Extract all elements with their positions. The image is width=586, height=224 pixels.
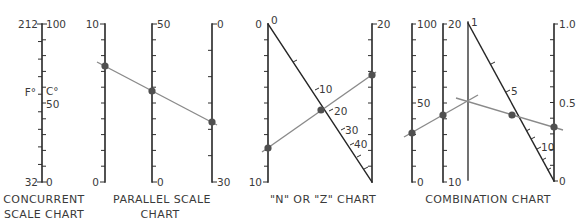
axis-bottom-label: 10	[448, 176, 461, 188]
diagonal-label: 1	[471, 16, 478, 28]
parallel-scale-chart: 10 0 50 0 0 30 PARALLEL SCALE CHART	[86, 18, 231, 221]
chart-title-line-2: SCALE CHART	[4, 208, 84, 221]
chart-title-line-1: PARALLEL SCALE	[113, 193, 211, 206]
diagonal-label: 20	[334, 105, 347, 117]
axis-top-label: 10	[86, 18, 99, 30]
axis-top-label: 0	[217, 18, 224, 30]
diagonal-label: 10	[541, 141, 554, 153]
isopleth-point	[148, 87, 155, 94]
concurrent-scale-chart: 212 100 F° C° 50 32 0 CONCURRENT SCALE C…	[3, 18, 84, 221]
chart-title-line-2: CHART	[140, 208, 179, 221]
diagonal-label: 40	[354, 138, 367, 150]
fahrenheit-unit-label: F°	[25, 86, 36, 98]
z-diagonal-ticks	[293, 60, 368, 169]
isopleth-point	[317, 106, 324, 113]
chart-title-line-1: COMBINATION CHART	[425, 193, 551, 206]
isopleth-point	[368, 71, 375, 78]
combination-chart: 100 50 0 20 10 1 5 10 1.0 0.5	[404, 16, 576, 206]
combination-diagonal-ticks	[491, 62, 551, 170]
axis-bottom-label: 30	[217, 176, 230, 188]
fahrenheit-top-label: 212	[18, 18, 38, 30]
isopleth-point	[264, 144, 271, 151]
diagonal-label: 30	[345, 124, 358, 136]
isopleth-point	[439, 111, 446, 118]
z-diagonal-scale	[268, 24, 372, 182]
n-or-z-chart: 0 10 20 0 10 20 30 40 "N" OR "Z" CHART	[249, 14, 391, 206]
axis-mid-label: 0.5	[559, 97, 576, 109]
axis-bottom-label: 0	[559, 175, 566, 187]
isopleth-point	[550, 123, 557, 130]
fahrenheit-bottom-label: 32	[25, 176, 38, 188]
axis-top-label: 20	[377, 18, 390, 30]
chart-title-line-1: "N" OR "Z" CHART	[270, 193, 376, 206]
celsius-mid-label: 50	[46, 98, 59, 110]
axis-mid-label: 50	[417, 97, 430, 109]
axis-top-label: 50	[157, 18, 170, 30]
axis-top-label: 1.0	[559, 18, 576, 30]
diagonal-label: 5	[511, 85, 518, 97]
celsius-unit-label: C°	[46, 85, 59, 97]
axis-bottom-label: 0	[417, 176, 424, 188]
isopleth-point	[508, 111, 515, 118]
celsius-bottom-label: 0	[46, 176, 53, 188]
diagonal-label: 10	[319, 83, 332, 95]
axis-bottom-label: 0	[92, 176, 99, 188]
celsius-top-label: 100	[46, 18, 66, 30]
isopleth-point	[101, 62, 108, 69]
axis-bottom-label: 0	[157, 176, 164, 188]
combination-diagonal-scale	[468, 23, 554, 181]
isopleth-point	[208, 118, 215, 125]
chart-title-line-1: CONCURRENT	[3, 193, 84, 206]
axis-top-label: 20	[448, 18, 461, 30]
nomogram-figure: 212 100 F° C° 50 32 0 CONCURRENT SCALE C…	[0, 0, 586, 224]
axis-bottom-label: 10	[249, 176, 262, 188]
axis-top-label: 100	[417, 18, 437, 30]
diagonal-label: 0	[271, 14, 278, 26]
axis-top-label: 0	[255, 18, 262, 30]
isopleth-point	[408, 129, 415, 136]
isopleth-line	[97, 62, 217, 125]
